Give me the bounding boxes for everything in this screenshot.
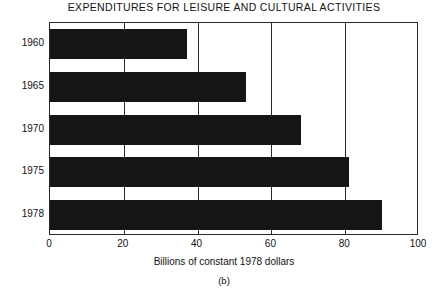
x-tick-label-80: 80 [339,238,350,249]
y-tick-label-1975: 1975 [0,165,44,177]
bar-1978 [50,200,382,230]
chart-title: EXPENDITURES FOR LEISURE AND CULTURAL AC… [0,1,448,13]
bar-row [50,157,419,187]
bar-chart-figure: EXPENDITURES FOR LEISURE AND CULTURAL AC… [0,0,448,292]
bar-row [50,29,419,59]
y-tick-label-1960: 1960 [0,37,44,49]
y-tick-label-1978: 1978 [0,208,44,220]
y-axis-tick-labels: 19601965197019751978 [0,22,44,235]
plot-area [49,22,418,235]
x-tick-label-20: 20 [117,238,128,249]
bar-row [50,72,419,102]
bar-1960 [50,29,187,59]
x-tick-label-0: 0 [46,238,52,249]
bar-1965 [50,72,246,102]
y-tick-label-1965: 1965 [0,80,44,92]
bar-row [50,115,419,145]
x-tick-label-100: 100 [410,238,427,249]
x-axis-title: Billions of constant 1978 dollars [0,256,448,267]
y-tick-label-1970: 1970 [0,123,44,135]
bar-1970 [50,115,301,145]
x-tick-label-60: 60 [265,238,276,249]
bar-1975 [50,157,349,187]
x-axis-tick-labels: 020406080100 [0,238,448,252]
bar-row [50,200,419,230]
x-tick-label-40: 40 [191,238,202,249]
figure-caption: (b) [0,275,448,286]
